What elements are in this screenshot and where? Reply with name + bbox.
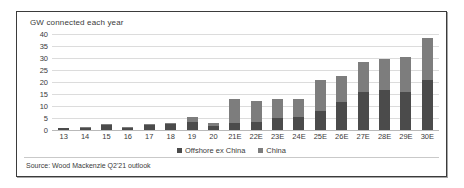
bar-segment-offshore-ex-china[interactable] xyxy=(379,90,390,130)
bar-column[interactable] xyxy=(160,34,181,130)
y-axis-tick-label: 10 xyxy=(40,102,48,111)
legend-swatch-icon xyxy=(177,148,182,153)
legend-label: Offshore ex China xyxy=(185,146,245,155)
bar-column[interactable] xyxy=(310,34,331,130)
bar-stack[interactable] xyxy=(58,128,69,130)
bar-stack[interactable] xyxy=(358,62,369,130)
x-axis-tick-label: 16 xyxy=(117,132,138,144)
bar-stack[interactable] xyxy=(165,123,176,130)
x-axis-ticks: 131415161718192021E22E23E24E25E26E27E28E… xyxy=(52,132,439,144)
bar-stack[interactable] xyxy=(144,124,155,130)
x-axis-tick-label: 19 xyxy=(181,132,202,144)
bar-segment-china[interactable] xyxy=(315,80,326,111)
x-axis-tick-label: 14 xyxy=(74,132,95,144)
bar-column[interactable] xyxy=(331,34,352,130)
bar-stack[interactable] xyxy=(400,57,411,130)
bar-segment-china[interactable] xyxy=(293,99,304,117)
bar-segment-china[interactable] xyxy=(400,57,411,92)
y-axis-tick-label: 5 xyxy=(44,114,48,123)
x-axis-tick-label: 22E xyxy=(246,132,267,144)
bar-column[interactable] xyxy=(224,34,245,130)
bar-column[interactable] xyxy=(74,34,95,130)
y-axis-tick-label: 20 xyxy=(40,78,48,87)
bar-segment-offshore-ex-china[interactable] xyxy=(293,117,304,130)
y-axis-tick-label: 0 xyxy=(44,126,48,135)
x-axis-tick-label: 24E xyxy=(288,132,309,144)
bar-segment-china[interactable] xyxy=(229,99,240,123)
x-axis-tick-label: 17 xyxy=(139,132,160,144)
x-axis-tick-label: 13 xyxy=(53,132,74,144)
bar-column[interactable] xyxy=(96,34,117,130)
bar-column[interactable] xyxy=(288,34,309,130)
bar-segment-offshore-ex-china[interactable] xyxy=(358,92,369,130)
bar-segment-offshore-ex-china[interactable] xyxy=(58,128,69,130)
bar-column[interactable] xyxy=(53,34,74,130)
bar-column[interactable] xyxy=(181,34,202,130)
bar-segment-china[interactable] xyxy=(379,59,390,90)
bar-segment-offshore-ex-china[interactable] xyxy=(208,126,219,130)
bar-segment-offshore-ex-china[interactable] xyxy=(122,128,133,130)
legend-item[interactable]: China xyxy=(258,146,286,155)
chart-title: GW connected each year xyxy=(30,18,124,27)
bar-segment-china[interactable] xyxy=(272,99,283,118)
bar-column[interactable] xyxy=(374,34,395,130)
bar-segment-offshore-ex-china[interactable] xyxy=(187,122,198,130)
bar-column[interactable] xyxy=(139,34,160,130)
bar-stack[interactable] xyxy=(422,38,433,130)
x-axis-tick-label: 15 xyxy=(96,132,117,144)
bar-stack[interactable] xyxy=(293,99,304,130)
bar-stack[interactable] xyxy=(379,59,390,130)
x-axis-tick-label: 27E xyxy=(352,132,373,144)
bar-stack[interactable] xyxy=(101,124,112,130)
axis-baseline xyxy=(52,130,439,131)
bar-segment-offshore-ex-china[interactable] xyxy=(422,80,433,130)
bar-column[interactable] xyxy=(417,34,438,130)
plot-area: 4035302520151050 xyxy=(52,34,439,130)
bar-segment-offshore-ex-china[interactable] xyxy=(315,111,326,130)
x-axis-tick-label: 20 xyxy=(203,132,224,144)
x-axis-tick-label: 25E xyxy=(310,132,331,144)
bar-column[interactable] xyxy=(117,34,138,130)
bar-stack[interactable] xyxy=(272,99,283,130)
bar-column[interactable] xyxy=(352,34,373,130)
bar-column[interactable] xyxy=(395,34,416,130)
bar-segment-china[interactable] xyxy=(422,38,433,80)
bar-segment-offshore-ex-china[interactable] xyxy=(144,125,155,130)
bar-column[interactable] xyxy=(267,34,288,130)
y-axis-tick-label: 35 xyxy=(40,42,48,51)
legend-label: China xyxy=(266,146,286,155)
y-axis-tick-label: 25 xyxy=(40,66,48,75)
bar-segment-offshore-ex-china[interactable] xyxy=(400,92,411,130)
bar-stack[interactable] xyxy=(251,101,262,130)
bar-stack[interactable] xyxy=(187,117,198,130)
bar-stack[interactable] xyxy=(315,80,326,130)
bar-segment-offshore-ex-china[interactable] xyxy=(336,102,347,130)
bar-segment-offshore-ex-china[interactable] xyxy=(229,123,240,130)
x-axis-tick-label: 21E xyxy=(224,132,245,144)
source-divider xyxy=(24,157,439,158)
bar-segment-offshore-ex-china[interactable] xyxy=(251,122,262,130)
bar-series-group xyxy=(52,34,439,130)
bar-column[interactable] xyxy=(203,34,224,130)
x-axis-tick-label: 28E xyxy=(374,132,395,144)
x-axis-tick-label: 26E xyxy=(331,132,352,144)
bar-stack[interactable] xyxy=(80,127,91,130)
legend-item[interactable]: Offshore ex China xyxy=(177,146,245,155)
bar-stack[interactable] xyxy=(336,76,347,130)
bar-stack[interactable] xyxy=(122,127,133,130)
bar-segment-offshore-ex-china[interactable] xyxy=(272,118,283,130)
x-axis-tick-label: 18 xyxy=(160,132,181,144)
bar-stack[interactable] xyxy=(229,99,240,130)
y-axis-tick-label: 30 xyxy=(40,54,48,63)
bar-column[interactable] xyxy=(246,34,267,130)
bar-segment-china[interactable] xyxy=(251,101,262,122)
bar-segment-offshore-ex-china[interactable] xyxy=(80,128,91,130)
bar-segment-china[interactable] xyxy=(336,76,347,102)
source-note: Source: Wood Mackenzie Q2'21 outlook xyxy=(26,162,151,169)
chart-legend: Offshore ex ChinaChina xyxy=(17,146,446,155)
x-axis-tick-label: 30E xyxy=(417,132,438,144)
bar-segment-offshore-ex-china[interactable] xyxy=(165,124,176,130)
bar-segment-offshore-ex-china[interactable] xyxy=(101,125,112,130)
bar-segment-china[interactable] xyxy=(358,62,369,92)
bar-stack[interactable] xyxy=(208,123,219,130)
